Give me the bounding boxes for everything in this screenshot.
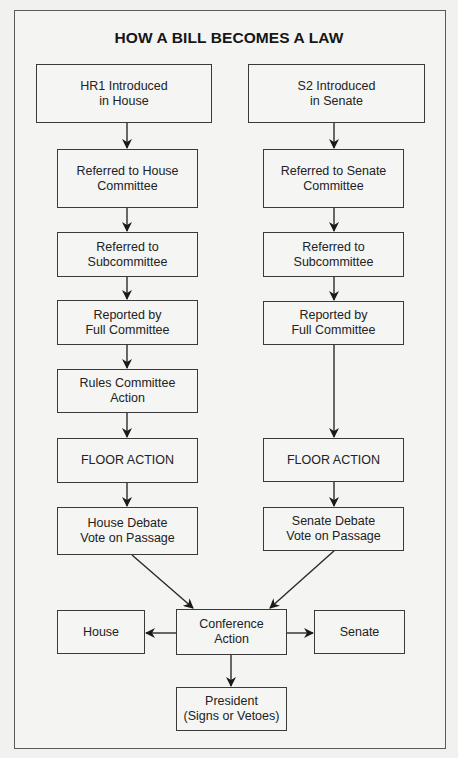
- diagram-title: HOW A BILL BECOMES A LAW: [0, 29, 458, 47]
- step-senate-subcommittee: Referred to Subcommittee: [263, 232, 404, 277]
- step-rules-committee: Rules Committee Action: [57, 369, 198, 413]
- step-hr1-introduced: HR1 Introduced in House: [36, 64, 212, 123]
- step-senate-debate: Senate Debate Vote on Passage: [263, 507, 404, 551]
- step-return-senate: Senate: [314, 610, 405, 654]
- step-senate-full-committee: Reported by Full Committee: [263, 301, 404, 345]
- step-house-full-committee: Reported by Full Committee: [57, 300, 198, 345]
- step-return-house: House: [57, 610, 145, 654]
- step-senate-floor-action: FLOOR ACTION: [263, 438, 404, 482]
- step-s2-introduced: S2 Introduced in Senate: [248, 64, 425, 123]
- step-house-debate: House Debate Vote on Passage: [57, 507, 198, 555]
- step-house-subcommittee: Referred to Subcommittee: [57, 232, 198, 277]
- step-president: President (Signs or Vetoes): [176, 687, 287, 731]
- step-house-floor-action: FLOOR ACTION: [57, 438, 198, 483]
- step-conference-action: Conference Action: [176, 609, 287, 655]
- step-senate-committee: Referred to Senate Committee: [263, 149, 404, 208]
- step-house-committee: Referred to House Committee: [57, 149, 198, 208]
